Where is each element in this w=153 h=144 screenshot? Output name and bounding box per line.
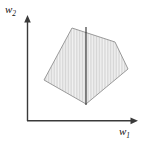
x-axis-label: w1 [119, 126, 130, 137]
x-axis-arrowhead-icon [131, 117, 139, 124]
y-axis-arrowhead-icon [24, 15, 31, 23]
figure-canvas: w2 w1 [0, 0, 153, 144]
y-axis-label: w2 [5, 4, 16, 15]
x-axis-label-subscript: 1 [126, 131, 130, 140]
diagram-svg [0, 0, 153, 144]
y-axis-label-subscript: 2 [12, 9, 16, 18]
